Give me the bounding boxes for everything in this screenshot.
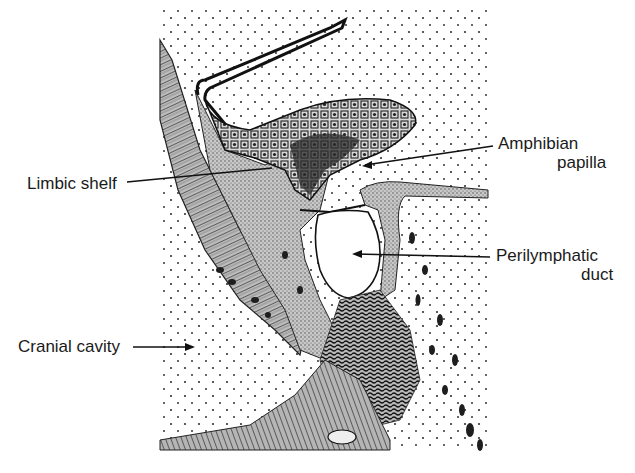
anatomical-illustration xyxy=(0,0,635,473)
label-text-line: papilla xyxy=(498,153,606,172)
label-text-line: Cranial cavity xyxy=(18,337,120,356)
label-text-line: Amphibian xyxy=(498,134,606,153)
label-perilymphatic-duct: Perilymphatic duct xyxy=(496,246,613,284)
label-amphibian-papilla: Amphibian papilla xyxy=(498,134,606,172)
label-text-line: Perilymphatic xyxy=(496,246,613,265)
label-cranial-cavity: Cranial cavity xyxy=(18,337,120,356)
label-text-line: Limbic shelf xyxy=(27,174,117,193)
label-text-line: duct xyxy=(496,265,613,284)
cell-nucleus-cluster xyxy=(328,430,356,444)
label-limbic-shelf: Limbic shelf xyxy=(27,174,117,193)
